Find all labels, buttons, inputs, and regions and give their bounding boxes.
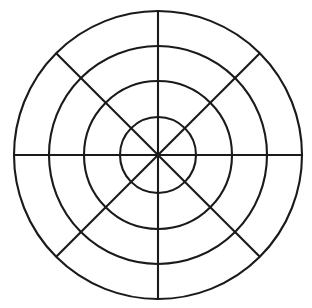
polar-grid-canvas [0, 0, 312, 308]
polar-grid-figure [0, 0, 312, 308]
polar-origin-point [156, 153, 160, 157]
